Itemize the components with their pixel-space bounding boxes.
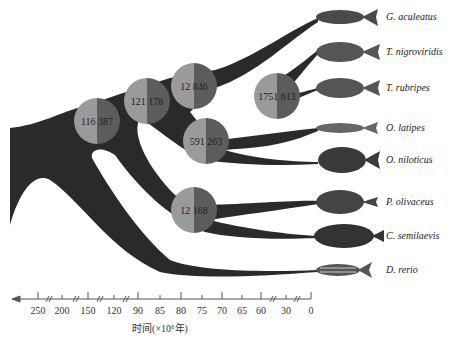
fish-icon-o-latipes [316,122,378,134]
axis-tick-60: 60 [256,305,266,316]
tree-branches [10,18,318,277]
species-label-g-aculeatus: G. aculeatus [386,11,437,22]
axis-tick-75: 75 [197,305,207,316]
node-label-n2: 121 178 [131,96,164,107]
species-label-c-semilaevis: C. semilaevis [386,230,439,241]
species-label-t-nigroviridis: T. nigroviridis [386,46,443,57]
fish-icon-t-rubripes [316,78,380,98]
phylogeny-figure: 116 387 121 178 12 846 1751 613 591 263 … [0,0,452,346]
fish-images [314,9,384,278]
axis-tick-150: 150 [81,305,96,316]
phylogenetic-tree [0,0,452,346]
node-label-n6: 12 168 [180,205,208,216]
axis-tick-30: 30 [281,305,291,316]
axis-tick-80: 80 [176,305,186,316]
root-trunk [10,18,318,277]
fish-icon-d-rerio [316,262,372,278]
axis-tick-85: 85 [155,305,165,316]
node-label-n1: 116 387 [81,116,113,127]
species-label-p-olivaceus: P. olivaceus [386,196,434,207]
fish-icon-g-aculeatus [316,9,378,26]
axis-tick-200: 200 [55,305,70,316]
species-label-t-rubripes: T. rubripes [386,82,430,93]
axis-tick-90: 90 [133,305,143,316]
node-label-n3: 12 846 [180,81,208,92]
axis-title: 时间(×10⁶年) [132,320,188,335]
fish-icon-t-nigroviridis [316,42,380,62]
fish-icon-p-olivaceus [316,190,378,214]
axis-tick-120: 120 [107,305,122,316]
node-label-n5: 591 263 [190,136,223,147]
species-label-o-latipes: O. latipes [386,122,425,133]
axis-tick-250: 250 [31,305,46,316]
fish-icon-o-niloticus [318,147,380,173]
node-label-n4: 1751 613 [258,91,296,102]
axis-tick-0: 0 [309,305,314,316]
fish-icon-c-semilaevis [314,224,384,248]
axis-tick-65: 65 [237,305,247,316]
axis-tick-70: 70 [217,305,227,316]
species-label-d-rerio: D. rerio [386,264,418,275]
species-label-o-niloticus: O. niloticus [386,154,433,165]
time-axis [12,292,311,302]
